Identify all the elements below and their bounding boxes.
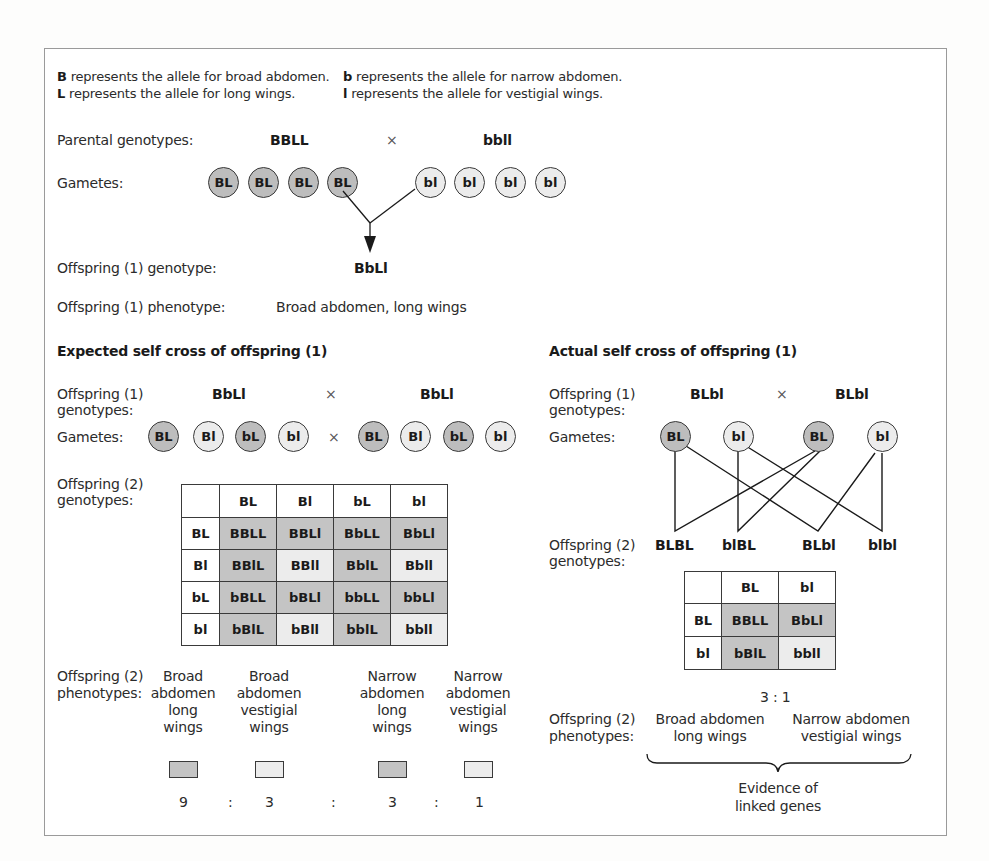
evidence-of-linked-genes: Evidence of linked genes <box>718 779 838 815</box>
curly-brace <box>0 0 989 861</box>
